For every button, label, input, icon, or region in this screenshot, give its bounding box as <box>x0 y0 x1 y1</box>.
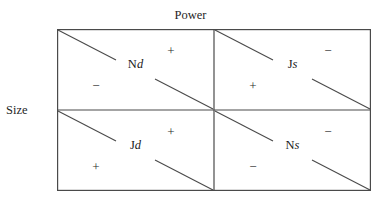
matrix-cell-top-left: Nd + − <box>57 29 214 110</box>
cell-label-bottom-right: Ns <box>214 139 371 152</box>
sign-bottom-left-upper-right: + <box>164 125 178 138</box>
cell-label-top-left-suffix: d <box>137 57 143 71</box>
sign-bottom-right-upper-right: − <box>321 125 335 138</box>
cell-label-bottom-left: Jd <box>57 139 214 152</box>
cell-label-top-left-prefix: N <box>128 57 137 71</box>
cell-label-bottom-right-suffix: s <box>295 138 300 152</box>
cell-label-top-right: Js <box>214 58 371 71</box>
matrix-cell-bottom-right: Ns − − <box>214 110 371 191</box>
cell-label-top-left: Nd <box>57 58 214 71</box>
sign-bottom-right-lower-left: − <box>246 160 260 173</box>
cell-label-top-right-suffix: s <box>293 57 298 71</box>
sign-top-left-upper-right: + <box>164 44 178 57</box>
power-axis-label: Power <box>0 9 381 22</box>
matrix-cell-top-right: Js − + <box>214 29 371 110</box>
matrix-grid: Nd + − Js − + Jd + + Ns − − <box>57 29 371 191</box>
size-axis-label: Size <box>6 104 54 117</box>
cell-label-bottom-left-suffix: d <box>135 138 141 152</box>
sign-bottom-left-lower-left: + <box>89 160 103 173</box>
sign-top-left-lower-left: − <box>89 79 103 92</box>
cell-label-bottom-right-prefix: N <box>286 138 295 152</box>
sign-top-right-upper-right: − <box>321 44 335 57</box>
matrix-cell-bottom-left: Jd + + <box>57 110 214 191</box>
sign-top-right-lower-left: + <box>246 79 260 92</box>
matrix-figure: Power Size Nd + − <box>0 0 381 201</box>
